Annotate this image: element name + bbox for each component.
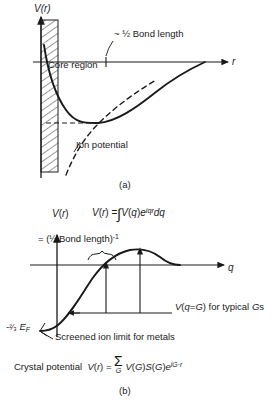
panel-a-y-axis-label: V(r)	[34, 4, 51, 15]
bond-length-leader	[106, 41, 113, 56]
screened-ion-limit-label: Screened ion limit for metals	[55, 332, 175, 342]
crystal-potential-equation: Crystal potential V(r) = ΣG V(G)S(G)eiG·…	[14, 356, 182, 374]
figure-pseudopotential: V(r) r ~ ½ Bond length Core region Ion p…	[0, 0, 277, 410]
screened-limit-leader	[41, 332, 53, 339]
panel-a-x-axis-label: r	[232, 57, 235, 68]
ion-potential-curve	[66, 80, 156, 175]
core-region-hatch	[41, 20, 58, 172]
pseudopotential-curve	[44, 45, 205, 123]
panel-a-caption: (a)	[119, 180, 131, 190]
ion-potential-label: Ion potential	[76, 140, 128, 150]
form-factor-curve	[40, 249, 180, 331]
bond-length-annotation: ~ ½ Bond length	[114, 29, 183, 39]
fourier-equation: V(r) =∫V(q)eiqrdq	[92, 207, 165, 219]
bond-length-inverse-annotation: = (½ Bond length)-1	[38, 233, 119, 244]
vq-equals-g-label: V(q=G) for typical Gs	[175, 302, 264, 312]
panel-b-x-axis-label: q	[228, 263, 234, 274]
panel-b-y-axis-label: V(r)	[52, 209, 69, 220]
core-region-label: Core region	[48, 60, 98, 70]
panel-b-caption: (b)	[119, 386, 131, 396]
fermi-energy-label: -²⁄₃ EF	[6, 322, 30, 333]
